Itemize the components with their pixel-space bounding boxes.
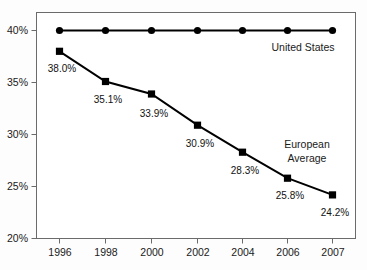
line-chart: 40% 35% 30% 25% 20% 1996 1998 2000 2002 … (0, 0, 367, 270)
data-label-eu-2000: 33.9% (140, 108, 168, 119)
y-tick-label-40: 40% (7, 24, 28, 36)
series-annotation-united-states: United States (271, 41, 334, 53)
data-label-eu-2006: 25.8% (276, 190, 304, 201)
x-tick-label-1998: 1998 (94, 246, 118, 258)
data-label-eu-1996: 38.0% (48, 63, 76, 74)
y-axis-labels: 40% 35% 30% 25% 20% (7, 24, 28, 244)
x-tick-label-1996: 1996 (48, 246, 72, 258)
y-tick-label-35: 35% (7, 76, 28, 88)
data-point-eu-1996 (56, 48, 63, 55)
series-annotation-european-line2: Average (288, 152, 327, 164)
y-tick-label-20: 20% (7, 232, 28, 244)
x-tick-label-2004: 2004 (231, 246, 255, 258)
x-tick-label-2006: 2006 (276, 246, 300, 258)
data-point-us-2007 (329, 27, 336, 34)
x-axis-ticks (60, 239, 333, 244)
chart-container: 40% 35% 30% 25% 20% 1996 1998 2000 2002 … (0, 0, 367, 270)
y-tick-label-25: 25% (7, 180, 28, 192)
data-point-us-2004 (239, 27, 246, 34)
data-point-us-2006 (284, 27, 291, 34)
y-axis-ticks (32, 31, 37, 239)
data-point-us-2002 (194, 27, 201, 34)
data-point-eu-1998 (102, 78, 109, 85)
data-label-eu-2002: 30.9% (186, 138, 214, 149)
data-label-eu-2004: 28.3% (231, 165, 259, 176)
data-point-us-1998 (102, 27, 109, 34)
data-point-eu-2002 (194, 122, 201, 129)
data-point-eu-2007 (329, 191, 336, 198)
data-label-eu-1998: 35.1% (94, 94, 122, 105)
series-annotation-european-line1: European (284, 138, 330, 150)
data-label-eu-2007: 24.2% (321, 207, 349, 218)
data-point-us-2000 (148, 27, 155, 34)
data-point-eu-2004 (239, 149, 246, 156)
x-tick-label-2007: 2007 (321, 246, 345, 258)
x-tick-label-2000: 2000 (140, 246, 164, 258)
data-point-us-1996 (56, 27, 63, 34)
y-tick-label-30: 30% (7, 128, 28, 140)
x-axis-labels: 1996 1998 2000 2002 2004 2006 2007 (48, 246, 345, 258)
x-tick-label-2002: 2002 (186, 246, 210, 258)
data-point-eu-2000 (148, 90, 155, 97)
data-point-eu-2006 (284, 175, 291, 182)
